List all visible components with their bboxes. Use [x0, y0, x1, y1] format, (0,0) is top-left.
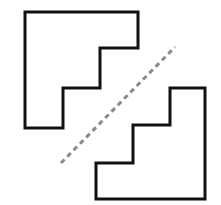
figure-svg: [0, 0, 221, 205]
lower-right-staircase-shape: [96, 88, 205, 199]
figure-canvas: [0, 0, 221, 205]
upper-left-staircase-shape: [25, 12, 138, 128]
